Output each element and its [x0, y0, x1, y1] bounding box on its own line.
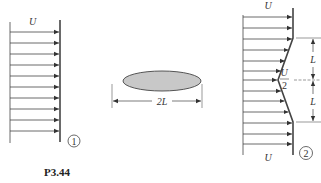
profile2-bottom-velocity-label: U — [264, 152, 272, 163]
body-length-label: 2L — [157, 96, 168, 107]
diagram-canvas: U 1 2L U — [0, 0, 321, 183]
station-marker-2: 2 — [300, 147, 313, 160]
elliptical-body: 2L — [112, 71, 202, 108]
center-velocity-fraction: U 2 — [280, 67, 289, 91]
profile1-velocity-label: U — [29, 16, 37, 27]
velocity-profile-1: U 1 — [10, 16, 80, 147]
lower-dim-label: L — [309, 96, 316, 107]
station-1-label: 1 — [72, 136, 77, 147]
station-marker-1: 1 — [68, 135, 80, 147]
profile2-top-velocity-label: U — [264, 0, 272, 11]
ellipse-shape — [123, 71, 201, 91]
figure-caption: P3.44 — [44, 166, 70, 178]
upper-dim-label: L — [309, 54, 316, 65]
profile1-arrows — [10, 32, 59, 131]
fraction-denominator: 2 — [282, 80, 287, 91]
fraction-numerator: U — [280, 67, 288, 78]
station-2-label: 2 — [304, 148, 309, 159]
profile2-dimensions: L L — [294, 38, 321, 122]
velocity-profile-2: U U U 2 L L 2 — [243, 0, 321, 163]
